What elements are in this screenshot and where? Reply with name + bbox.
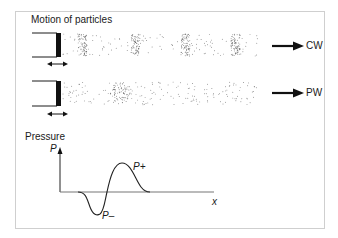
cw-particles	[63, 34, 258, 57]
y-axis-label: P	[50, 143, 57, 154]
pw-oscillation-arrow-icon	[47, 112, 68, 117]
trough-label: P–	[102, 210, 114, 221]
cw-label: CW	[306, 40, 323, 51]
pw-particles	[63, 82, 257, 106]
pressure-y-axis	[58, 147, 63, 192]
pw-label: PW	[306, 87, 322, 98]
pw-direction-arrow-icon	[272, 89, 304, 98]
cw-direction-arrow-icon	[272, 42, 304, 51]
cw-piston-icon	[32, 33, 61, 57]
cw-oscillation-arrow-icon	[47, 62, 68, 67]
peak-label: P+	[133, 161, 146, 172]
pw-piston-icon	[32, 81, 61, 106]
x-axis-label: x	[212, 196, 217, 207]
graph-title: Pressure	[25, 131, 65, 142]
diagram-canvas	[0, 0, 338, 238]
